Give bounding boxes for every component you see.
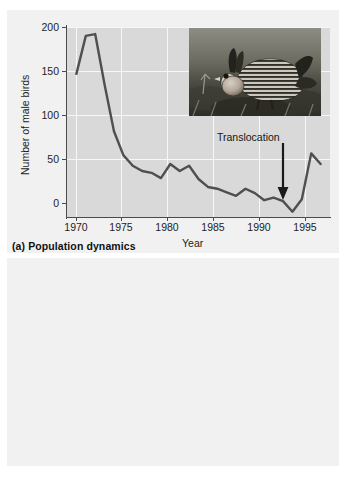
- figure-container: 200 150 100 50 0 Number of male birds 19…: [0, 0, 346, 477]
- translocation-arrow-icon: [275, 143, 291, 201]
- greater-prairie-chicken-photo: [189, 28, 321, 116]
- panel-a-caption: (a) Population dynamics: [12, 240, 136, 252]
- y-tick-label-200: 200: [21, 22, 59, 32]
- x-tick-label-1980: 1980: [147, 222, 187, 233]
- y-tick-200: [62, 27, 66, 28]
- y-tick-150: [62, 71, 66, 72]
- x-axis-line-a: [66, 217, 331, 218]
- y-tick-100: [62, 115, 66, 116]
- x-tick-label-1990: 1990: [239, 222, 279, 233]
- panel-population-dynamics: 200 150 100 50 0 Number of male birds 19…: [7, 10, 339, 253]
- x-tick-label-1995: 1995: [285, 222, 325, 233]
- x-axis-title-a: Year: [182, 237, 203, 249]
- x-tick-label-1975: 1975: [101, 222, 141, 233]
- panel-hatching-rate: 100 90 80 70 60 50 40 30 Eggs hatched (%…: [7, 258, 339, 466]
- y-tick-50: [62, 159, 66, 160]
- y-tick-label-0: 0: [21, 198, 59, 208]
- x-tick-label-1985: 1985: [193, 222, 233, 233]
- y-axis-title-a: Number of male birds: [19, 75, 31, 175]
- x-tick-label-1970: 1970: [56, 222, 96, 233]
- y-tick-0: [62, 203, 66, 204]
- translocation-annotation-label: Translocation: [217, 131, 280, 143]
